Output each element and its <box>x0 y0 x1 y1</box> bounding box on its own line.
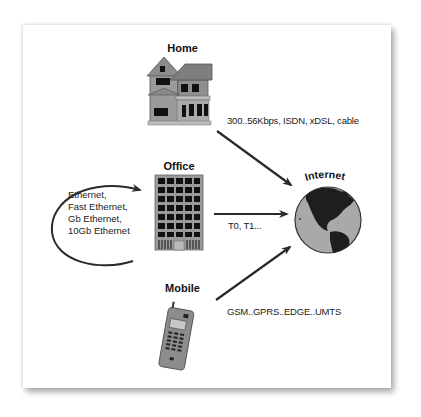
mobile-phone-icon <box>158 301 195 371</box>
mobile-label: Mobile <box>160 282 205 294</box>
home-to-internet-arrow <box>217 131 291 185</box>
lan-tech-ethernet: Ethernet, <box>68 189 130 201</box>
office-lan-technologies: Ethernet, Fast Ethernet, Gb Ethernet, 10… <box>68 189 130 237</box>
home-label: Home <box>160 42 205 54</box>
office-building-icon <box>155 175 203 250</box>
lan-tech-fast-ethernet: Fast Ethernet, <box>68 201 130 213</box>
mobile-link-note: GSM..GPRS..EDGE..UMTS <box>227 306 341 317</box>
lan-tech-gb-ethernet: Gb Ethernet, <box>68 213 130 225</box>
globe-icon <box>295 187 361 258</box>
office-label: Office <box>155 160 203 172</box>
mobile-to-internet-arrow <box>216 247 290 300</box>
diagram-graphics: Internet <box>0 0 421 417</box>
home-link-note: 300..56Kbps, ISDN, xDSL, cable <box>227 115 359 126</box>
lan-tech-10gb-ethernet: 10Gb Ethernet <box>68 225 130 237</box>
office-link-note: T0, T1... <box>228 220 261 231</box>
house-icon <box>147 57 212 125</box>
internet-label: Internet <box>303 168 347 183</box>
